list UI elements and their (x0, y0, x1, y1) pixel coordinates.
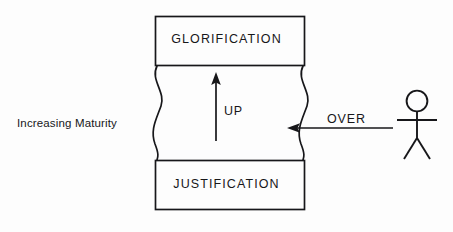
glorification-label: GLORIFICATION (0, 32, 453, 46)
stick-figure-leg-left (404, 138, 417, 159)
stick-figure-leg-right (417, 138, 430, 159)
stick-figure (397, 91, 437, 159)
diagram-canvas: GLORIFICATION JUSTIFICATION UP OVER Incr… (0, 0, 453, 232)
increasing-maturity-label: Increasing Maturity (17, 117, 117, 129)
stick-figure-head (407, 91, 428, 112)
right-wavy-edge (299, 66, 308, 160)
up-arrow-label: UP (224, 104, 243, 118)
over-arrow-label: OVER (327, 112, 366, 126)
left-wavy-edge (153, 66, 162, 160)
justification-label: JUSTIFICATION (0, 177, 453, 191)
